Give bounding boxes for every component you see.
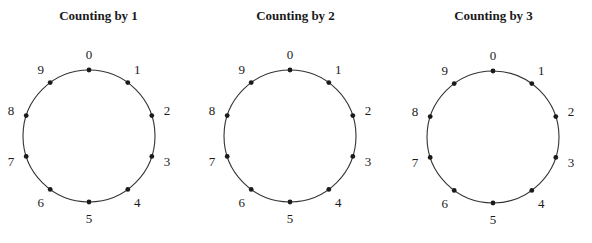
circle-outline <box>224 70 356 202</box>
point-label-7: 7 <box>412 155 419 170</box>
point-label-9: 9 <box>442 63 449 78</box>
point-label-3: 3 <box>164 154 171 169</box>
point-label-9: 9 <box>239 62 246 77</box>
point-dot <box>24 154 29 159</box>
circle-outline <box>427 71 559 203</box>
number-circle-1: 0123456789 <box>8 47 171 226</box>
point-dot <box>87 200 92 205</box>
point-dot <box>529 81 534 86</box>
point-label-1: 1 <box>538 63 545 78</box>
point-label-5: 5 <box>287 211 294 226</box>
point-label-9: 9 <box>38 62 45 77</box>
circle-outline <box>23 70 155 202</box>
point-dot <box>149 113 154 118</box>
point-dot <box>553 114 558 119</box>
point-dot <box>48 80 53 85</box>
point-label-6: 6 <box>442 196 449 211</box>
point-label-1: 1 <box>335 62 342 77</box>
number-circle-3: 0123456789 <box>412 48 575 227</box>
point-dot <box>125 187 130 192</box>
point-dot <box>288 200 293 205</box>
point-label-8: 8 <box>412 104 419 119</box>
point-label-7: 7 <box>8 154 15 169</box>
point-dot <box>249 80 254 85</box>
point-dot <box>350 154 355 159</box>
point-label-5: 5 <box>490 212 497 227</box>
point-label-8: 8 <box>8 103 15 118</box>
point-dot <box>249 187 254 192</box>
point-label-7: 7 <box>209 154 216 169</box>
point-dot <box>428 114 433 119</box>
point-dot <box>225 154 230 159</box>
point-label-5: 5 <box>86 211 93 226</box>
point-label-0: 0 <box>287 47 294 62</box>
point-label-3: 3 <box>568 155 575 170</box>
point-dot <box>149 154 154 159</box>
point-dot <box>125 80 130 85</box>
point-dot <box>87 68 92 73</box>
point-label-2: 2 <box>568 104 575 119</box>
number-circle-2: 0123456789 <box>209 47 372 226</box>
point-dot <box>326 187 331 192</box>
point-label-2: 2 <box>164 103 171 118</box>
point-label-4: 4 <box>538 196 545 211</box>
point-dot <box>529 188 534 193</box>
circles-diagram: 012345678901234567890123456789 <box>0 0 592 243</box>
point-dot <box>225 113 230 118</box>
point-dot <box>428 155 433 160</box>
point-dot <box>452 81 457 86</box>
point-dot <box>24 113 29 118</box>
point-dot <box>288 68 293 73</box>
point-dot <box>48 187 53 192</box>
point-label-0: 0 <box>490 48 497 63</box>
point-dot <box>452 188 457 193</box>
point-label-0: 0 <box>86 47 93 62</box>
point-label-3: 3 <box>365 154 372 169</box>
point-label-8: 8 <box>209 103 216 118</box>
point-label-2: 2 <box>365 103 372 118</box>
point-dot <box>553 155 558 160</box>
point-dot <box>350 113 355 118</box>
point-dot <box>491 201 496 206</box>
point-label-1: 1 <box>134 62 141 77</box>
point-label-4: 4 <box>335 195 342 210</box>
point-label-6: 6 <box>239 195 246 210</box>
point-label-6: 6 <box>38 195 45 210</box>
point-dot <box>326 80 331 85</box>
point-label-4: 4 <box>134 195 141 210</box>
point-dot <box>491 69 496 74</box>
